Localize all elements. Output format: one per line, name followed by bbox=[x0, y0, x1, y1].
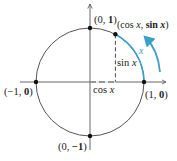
label-arc-x: x bbox=[138, 45, 144, 56]
unit-circle-diagram: (0, 1) (cos x, sin x) (−1, 0) (1, 0) (0,… bbox=[0, 0, 177, 161]
point-left bbox=[34, 80, 38, 84]
label-top: (0, 1) bbox=[94, 14, 117, 26]
label-cos-x: cos x bbox=[93, 84, 115, 95]
label-bottom: (0, −1) bbox=[58, 141, 87, 153]
point-bottom bbox=[88, 134, 92, 138]
direction-arrow-icon bbox=[146, 38, 160, 72]
point-top bbox=[88, 26, 92, 30]
label-left: (−1, 0) bbox=[4, 86, 33, 98]
label-on-circle: (cos x, sin x) bbox=[117, 19, 169, 31]
label-right: (1, 0) bbox=[145, 89, 168, 101]
point-right bbox=[142, 80, 146, 84]
point-on-circle bbox=[113, 32, 117, 36]
label-sin-x: sin x bbox=[117, 57, 137, 68]
